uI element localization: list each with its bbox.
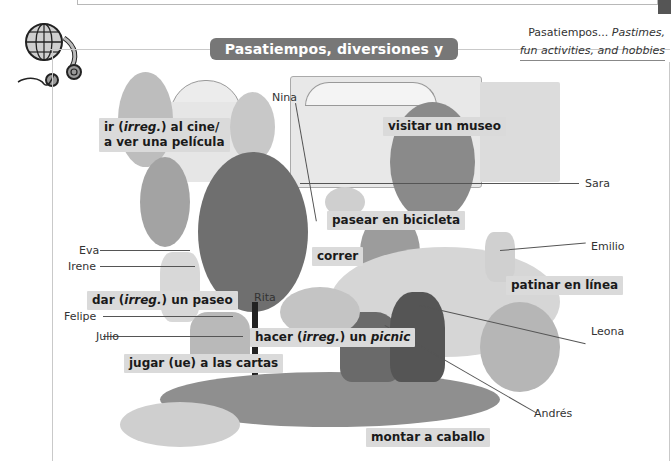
tree-left-mid: [140, 157, 190, 247]
runner: [485, 232, 515, 282]
cine-text-2: ) al cine/: [161, 120, 219, 134]
gloss-term: Pasatiempos...: [528, 26, 608, 39]
museum-arch: [305, 82, 437, 106]
name-leona: Leona: [591, 325, 624, 338]
frame-right-border: [669, 62, 670, 461]
gloss-line2: fun activities, and hobbies: [520, 44, 665, 57]
leader-eva: [100, 250, 190, 251]
leader-felipe: [103, 316, 233, 317]
vocab-label-cartas: jugar (ue) a las cartas: [124, 354, 283, 373]
name-julio: Julio: [96, 330, 119, 343]
vocab-label-cine: ir (irreg.) al cine/ a ver una película: [99, 118, 230, 152]
picnic-text-2: ) un: [340, 330, 371, 344]
cine-text-3: a ver una película: [104, 135, 225, 150]
leader-irene: [100, 266, 195, 267]
vocab-label-museo: visitar un museo: [383, 117, 506, 136]
vocab-label-picnic: hacer (irreg.) un picnic: [250, 328, 415, 347]
headphone-cord-icon: [10, 62, 70, 92]
picnic-text-1: hacer (: [255, 330, 302, 344]
picnic-text-3: picnic: [371, 330, 411, 344]
name-eva: Eva: [79, 244, 99, 257]
name-nina: Nina: [272, 91, 297, 104]
paseo-irreg: irreg.: [124, 293, 161, 307]
vocab-label-caballo: montar a caballo: [366, 428, 490, 447]
name-irene: Irene: [68, 260, 96, 273]
picnic-irreg: irreg.: [302, 330, 339, 344]
name-rita: Rita: [254, 291, 276, 304]
name-andres: Andrés: [534, 407, 572, 420]
section-title: Pasatiempos, diversiones y aficiones°: [210, 38, 458, 60]
name-emilio: Emilio: [591, 240, 625, 253]
cine-text-1: ir (: [104, 120, 124, 134]
vocab-label-paseo: dar (irreg.) un paseo: [87, 291, 238, 310]
vocab-label-correr: correr: [312, 247, 363, 266]
name-felipe: Felipe: [64, 310, 96, 323]
frame-left-border: [52, 49, 53, 461]
grass-bottom-left: [120, 402, 240, 447]
paseo-text-1: dar (: [92, 293, 124, 307]
title-gloss: Pasatiempos... Pastimes, fun activities,…: [520, 24, 665, 61]
leader-sara: [300, 183, 579, 184]
paseo-text-2: ) un paseo: [162, 293, 233, 307]
walking-couple: [160, 252, 200, 322]
leader-julio: [103, 336, 243, 337]
vocab-label-bicicleta: pasear en bicicleta: [327, 211, 465, 230]
bush-right: [480, 302, 560, 392]
top-frame: [77, 0, 658, 5]
gloss-line1: Pastimes,: [612, 26, 665, 39]
page-tab-marker: [658, 0, 671, 14]
vocab-label-patinar: patinar en línea: [506, 276, 623, 295]
cine-irreg: irreg.: [124, 120, 161, 134]
tree-large-center: [198, 152, 308, 312]
name-sara: Sara: [585, 177, 610, 190]
